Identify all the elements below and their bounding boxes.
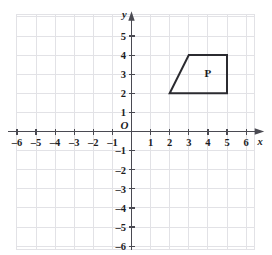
y-tick-label: –3 — [115, 184, 127, 195]
x-tick-label: 5 — [224, 137, 229, 148]
y-tick-label: 5 — [121, 31, 126, 42]
y-tick-label: –4 — [115, 203, 127, 214]
coordinate-plane-figure: –6–5–4–3–2–1123456 54321–1–2–3–4–5–6 O x… — [0, 0, 272, 255]
origin-label: O — [121, 119, 129, 131]
y-axis-label: y — [120, 9, 127, 20]
y-tick-label: 3 — [121, 69, 126, 80]
y-tick-label: –1 — [115, 145, 127, 156]
y-tick-label: 2 — [121, 88, 126, 99]
x-tick-label: 2 — [167, 137, 172, 148]
x-tick-label: 3 — [186, 137, 191, 148]
coordinate-plane-svg: –6–5–4–3–2–1123456 54321–1–2–3–4–5–6 O x… — [0, 0, 272, 255]
x-tick-label: –5 — [30, 137, 42, 148]
x-tick-label: 4 — [205, 137, 211, 148]
x-tick-label: –4 — [49, 137, 61, 148]
y-tick-label: 1 — [121, 107, 126, 118]
y-tick-label: –2 — [115, 165, 127, 176]
x-tick-label: 6 — [243, 137, 248, 148]
x-tick-label: –2 — [87, 137, 99, 148]
x-tick-label: –3 — [68, 137, 80, 148]
x-tick-label: 1 — [148, 137, 153, 148]
figure-background — [0, 0, 272, 255]
y-tick-label: 4 — [121, 50, 127, 61]
shape-label-p: P — [205, 67, 212, 79]
x-axis-label: x — [257, 136, 263, 147]
x-tick-label: –6 — [11, 137, 23, 148]
y-tick-label: –5 — [115, 222, 127, 233]
y-tick-label: –6 — [115, 241, 127, 252]
shape-labels: P — [205, 67, 212, 79]
